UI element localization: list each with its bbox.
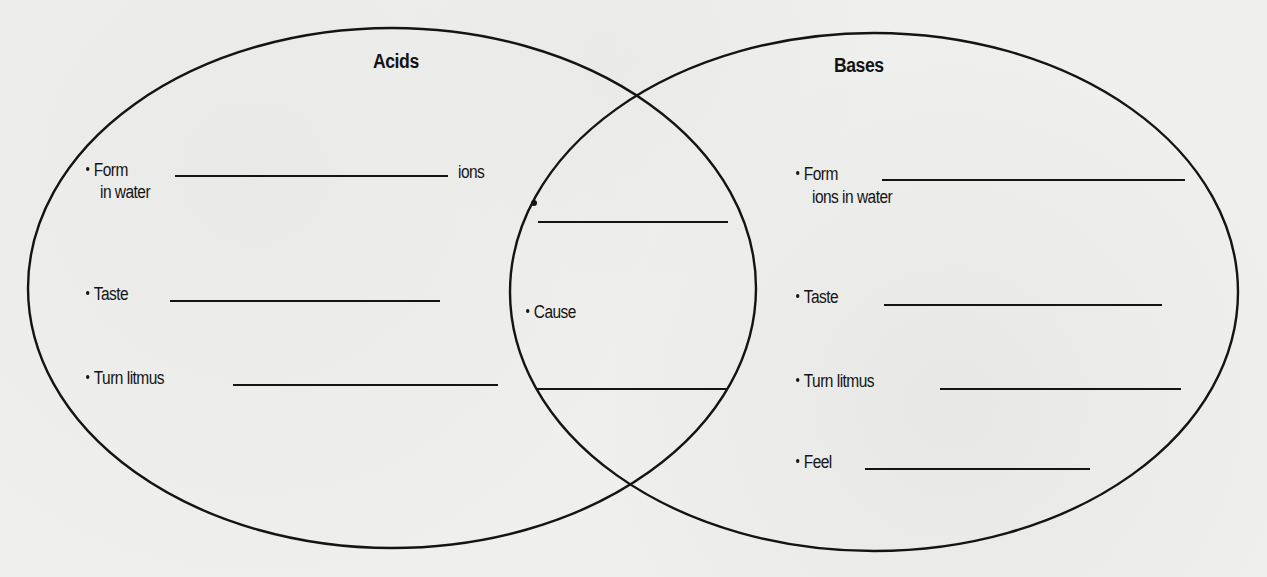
bullet-icon xyxy=(531,200,537,206)
bullet-icon xyxy=(796,294,799,298)
acids-form-label-line2: in water xyxy=(100,182,150,202)
overlap-cause-blank[interactable] xyxy=(537,388,727,390)
bases-litmus-label: Turn litmus xyxy=(796,371,874,391)
bases-taste-blank[interactable] xyxy=(884,304,1162,306)
bases-form-label-line2: ions in water xyxy=(812,187,892,207)
acids-form-blank[interactable] xyxy=(175,175,448,177)
acids-litmus-blank[interactable] xyxy=(233,384,498,386)
bases-feel-label: Feel xyxy=(796,452,832,472)
bullet-icon xyxy=(526,309,529,313)
acids-form-label: Form xyxy=(86,160,128,180)
bases-ellipse xyxy=(510,33,1238,551)
overlap-first-blank[interactable] xyxy=(538,221,728,223)
bases-litmus-blank[interactable] xyxy=(940,388,1181,390)
bases-title: Bases xyxy=(834,54,884,77)
acids-ellipse xyxy=(28,28,756,548)
bullet-icon xyxy=(86,375,89,379)
bullet-icon xyxy=(86,167,89,171)
acids-taste-blank[interactable] xyxy=(170,300,440,302)
venn-diagram xyxy=(0,0,1267,577)
bases-feel-blank[interactable] xyxy=(865,468,1090,470)
overlap-cause-label: Cause xyxy=(526,302,576,322)
bases-form-blank[interactable] xyxy=(882,179,1185,181)
acids-taste-label: Taste xyxy=(86,284,128,304)
bases-taste-label: Taste xyxy=(796,287,838,307)
bases-form-label: Form xyxy=(796,164,838,184)
bullet-icon xyxy=(796,459,799,463)
bullet-icon xyxy=(86,291,89,295)
bullet-icon xyxy=(796,171,799,175)
acids-title: Acids xyxy=(373,50,419,73)
acids-litmus-label: Turn litmus xyxy=(86,368,164,388)
acids-form-suffix: ions xyxy=(458,162,484,182)
bullet-icon xyxy=(796,378,799,382)
